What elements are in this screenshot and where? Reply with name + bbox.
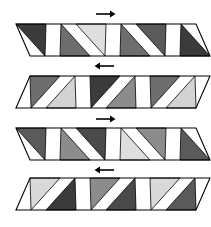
- band-diagram-svg: [0, 0, 211, 227]
- shear-band-figure: [0, 0, 211, 227]
- arrow-2-head: [95, 62, 101, 69]
- band-3-triangle-6-up: [180, 128, 210, 160]
- arrow-3-right-icon: [96, 115, 116, 122]
- band-group-2: [16, 76, 210, 108]
- band-group-3: [16, 128, 210, 160]
- arrow-1-head: [110, 10, 116, 17]
- band-group-1: [16, 24, 210, 56]
- arrow-2-left-icon: [95, 62, 115, 69]
- bands-layer: [16, 24, 210, 210]
- band-group-4: [16, 178, 210, 210]
- arrow-3-head: [110, 115, 116, 122]
- band-3-triangle-1-down: [16, 128, 46, 160]
- band-1-triangle-1-down: [16, 24, 46, 56]
- band-1-triangle-6-up: [180, 24, 210, 56]
- arrow-4-head: [95, 166, 101, 173]
- arrow-1-right-icon: [96, 10, 116, 17]
- arrow-4-left-icon: [95, 166, 115, 173]
